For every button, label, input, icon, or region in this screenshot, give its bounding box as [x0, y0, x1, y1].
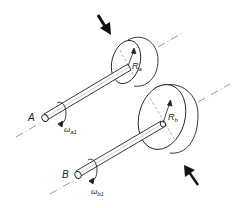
axis-a-lower [16, 122, 42, 137]
shaft-a [41, 64, 131, 123]
label-shaft-b: B [62, 169, 69, 180]
label-shaft-a: A [27, 112, 35, 123]
force-arrow-bottom [184, 165, 198, 185]
shaft-disk-diagram: A B Ra Rb ωa1 ωb1 [0, 0, 240, 208]
label-omega-b1: ωb1 [91, 187, 104, 197]
force-arrow-top [98, 15, 111, 35]
axis-b-lower [50, 179, 76, 194]
label-omega-a1: ωa1 [64, 125, 77, 135]
axis-b-upper [198, 84, 230, 102]
axis-a-upper [158, 32, 184, 47]
shaft-b [74, 120, 167, 179]
